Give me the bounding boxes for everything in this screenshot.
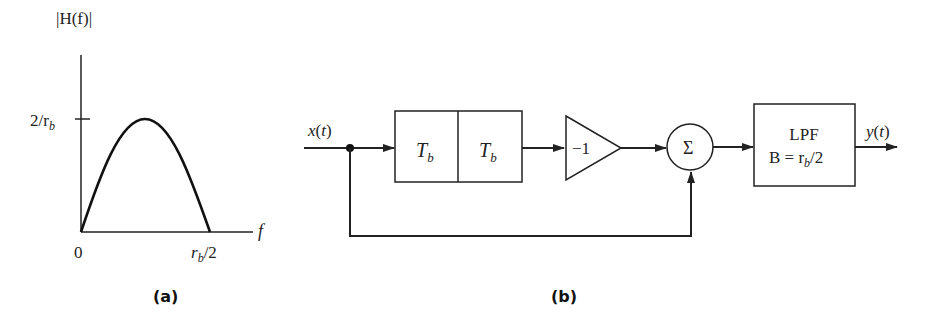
lpf-block: [754, 104, 855, 186]
caption-b: (b): [551, 287, 577, 306]
y-axis-label: |H(f)|: [56, 9, 92, 28]
summer-label: Σ: [683, 138, 693, 158]
input-label: x(t): [307, 121, 332, 140]
output-label: y(t): [864, 122, 890, 141]
figure-canvas: |H(f)| 2/rb f 0 rb/2 (a) x(t) Tb Tb −1 Σ…: [0, 0, 934, 323]
feedforward-path: [350, 148, 691, 236]
block-diagram: x(t) Tb Tb −1 Σ LPF B = rb/2 y(t) (b): [304, 104, 897, 306]
x-axis-label: f: [258, 221, 266, 241]
response-curve: [81, 119, 210, 232]
lpf-title: LPF: [789, 125, 818, 144]
caption-a: (a): [153, 287, 178, 306]
magnitude-response-plot: |H(f)| 2/rb f 0 rb/2 (a): [30, 9, 266, 306]
gain-label: −1: [572, 139, 590, 158]
lpf-bandwidth: B = rb/2: [769, 148, 823, 170]
y-tick-label: 2/rb: [30, 111, 55, 133]
x-origin-label: 0: [74, 243, 83, 262]
delay2-label: Tb: [479, 139, 497, 165]
delay1-label: Tb: [416, 139, 434, 165]
x-end-label: rb/2: [191, 243, 217, 265]
